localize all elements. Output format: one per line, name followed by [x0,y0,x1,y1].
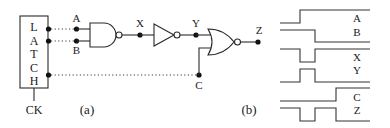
inverter-bubble [174,32,180,38]
label-z: Z [256,24,263,36]
nand-body [90,23,116,47]
waveform-label-a: A [353,12,361,24]
part-b-label: (b) [241,102,256,117]
nor-body [208,29,234,55]
latch-letter-l: L [30,20,37,34]
latch-letter-h: H [30,74,39,88]
input-nodes: A B [73,12,90,56]
label-a: A [73,12,81,24]
latch-letter-c: C [30,61,38,75]
nand-gate [90,23,140,47]
latch-glitch-diagram: L A T C H CK A B X Y [0,0,390,128]
nor-bubble [235,39,241,45]
label-b: B [73,44,80,56]
inverter-gate [154,24,196,46]
latch-block: L A T C H CK [20,16,48,117]
waveform-label-x: X [353,51,361,63]
latch-out-c-node [46,72,51,77]
part-a-label: (a) [80,102,94,117]
inverter-body [154,24,174,46]
label-c: C [195,79,202,91]
latch-out-b-node [46,38,51,43]
latch-out-a-node [46,26,51,31]
clock-label: CK [26,103,43,117]
waveform-label-z: Z [354,104,361,116]
waveform-label-b: B [353,26,360,38]
waveform-label-y: Y [353,64,361,76]
latch-letter-a: A [30,34,39,48]
label-x: X [136,17,144,29]
latch-letter-t: T [30,47,38,61]
nor-gate [208,29,258,55]
waveform-label-c: C [353,91,360,103]
waveforms: A B X Y C Z [280,10,370,121]
node-z [255,39,260,44]
label-y: Y [192,17,200,29]
nand-bubble [116,32,122,38]
